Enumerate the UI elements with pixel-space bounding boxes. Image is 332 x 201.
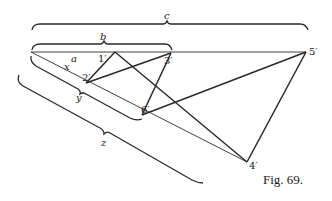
brace-y [31,56,142,120]
point-label-3: 3′ [164,55,173,66]
point-label-5: 5′ [309,46,318,57]
figure-caption: Fig. 69. [263,172,303,187]
brace-c [32,21,308,30]
brace-b [32,41,172,50]
label-y: y [75,92,82,103]
point-label-1: 1′ [98,53,107,64]
edge-5-4 [247,52,306,162]
label-b: b [100,31,106,42]
figure-diagram: a b c x y z 1′ 2′ 3′ 4′ 5′ 6′ Fig. 69. [0,0,332,201]
label-c: c [164,10,170,21]
point-label-6: 6′ [141,104,150,115]
label-a: a [71,53,77,64]
label-x: x [64,61,70,72]
brace-z [18,75,203,183]
point-label-4: 4′ [249,160,258,171]
label-z: z [100,137,107,148]
edge-4-1 [115,52,247,162]
point-label-2: 2′ [82,72,91,83]
